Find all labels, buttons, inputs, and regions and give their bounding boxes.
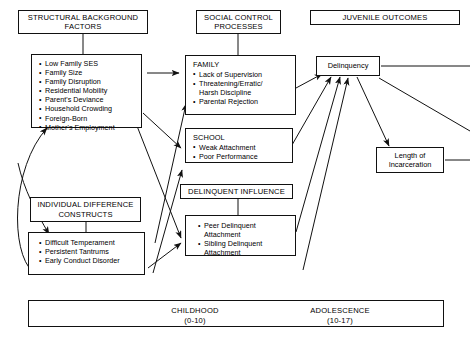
header-delinquent-influence-label: DELINQUENT INFLUENCE <box>181 187 292 197</box>
list-item: Household Crowding <box>39 104 138 113</box>
timeline-childhood: CHILDHOOD (0-10) <box>140 306 250 325</box>
list-item: Threatening/Erratic/ Harsh Discipline <box>193 79 292 97</box>
list-item: Low Family SES <box>39 59 138 68</box>
family-title: FAMILY <box>193 60 292 69</box>
arrow-individual-to-school <box>153 170 182 273</box>
arrow-structural-to-school <box>143 113 181 148</box>
list-item: Family Size <box>39 68 138 77</box>
header-social-control-processes: SOCIAL CONTROL PROCESSES <box>196 10 281 34</box>
list-item: Foreign-Born <box>39 114 138 123</box>
list-item: Difficult Temperament <box>39 238 141 247</box>
header-structural-label: STRUCTURAL BACKGROUND FACTORS <box>19 13 147 32</box>
box-school: SCHOOL Weak Attachment Poor Performance <box>185 128 293 163</box>
list-item: Mother's Employment <box>39 123 138 132</box>
arrow-structural-to-delinquent-influence <box>137 126 181 238</box>
box-delinquent-influence: Peer Delinquent Attachment Sibling Delin… <box>185 215 296 256</box>
arrow-individual-to-family <box>155 104 186 243</box>
arrow-family-to-delinquency <box>296 74 322 88</box>
list-item: Sibling Delinquent Attachment <box>198 239 292 257</box>
list-item: Parent's Deviance <box>39 95 138 104</box>
delinquent-influence-list: Peer Delinquent Attachment Sibling Delin… <box>198 221 292 257</box>
individual-constructs-list: Difficult Temperament Persistent Tantrum… <box>39 238 141 265</box>
arrow-individual-to-delinquency <box>303 78 348 270</box>
box-family: FAMILY Lack of Supervision Threatening/E… <box>185 55 296 115</box>
box-length-of-incarceration: Length of Incarceration <box>376 147 444 173</box>
list-item: Weak Attachment <box>193 143 289 152</box>
header-juvenile-outcomes: JUVENILE OUTCOMES <box>310 10 460 25</box>
list-item: Poor Performance <box>193 152 289 161</box>
family-list: Lack of Supervision Threatening/Erratic/… <box>193 70 292 106</box>
structural-factors-list: Low Family SES Family Size Family Disrup… <box>39 59 138 132</box>
timeline-childhood-range: (0-10) <box>140 316 250 326</box>
header-delinquent-influence: DELINQUENT INFLUENCE <box>180 184 293 199</box>
timeline-adolescence-label: ADOLESCENCE <box>285 306 395 316</box>
incarceration-label: Length of Incarceration <box>389 151 432 169</box>
box-individual-difference-constructs: Difficult Temperament Persistent Tantrum… <box>28 232 145 275</box>
rule-delinquency-diagonal <box>379 78 470 131</box>
school-title: SCHOOL <box>193 133 289 142</box>
header-juvenile-label: JUVENILE OUTCOMES <box>311 13 459 23</box>
list-item: Peer Delinquent Attachment <box>198 221 292 239</box>
list-item: Residential Mobility <box>39 86 138 95</box>
arrow-delinquent-influence-to-delinquency <box>296 77 340 232</box>
header-structural-background-factors: STRUCTURAL BACKGROUND FACTORS <box>18 10 148 34</box>
diagram-canvas: STRUCTURAL BACKGROUND FACTORS SOCIAL CON… <box>0 0 472 343</box>
arrow-individual-to-delinquent-influence <box>148 243 181 268</box>
list-item: Lack of Supervision <box>193 70 292 79</box>
header-individual-label: INDIVIDUAL DIFFERENCE CONSTRUCTS <box>31 200 140 219</box>
list-item: Parental Rejection <box>193 97 292 106</box>
timeline-childhood-label: CHILDHOOD <box>140 306 250 316</box>
arrow-delinquency-to-incarceration <box>357 77 389 146</box>
box-delinquency: Delinquency <box>316 56 380 76</box>
list-item: Family Disruption <box>39 77 138 86</box>
list-item: Early Conduct Disorder <box>39 256 141 265</box>
box-structural-background-factors: Low Family SES Family Size Family Disrup… <box>31 54 142 128</box>
header-individual-difference-constructs: INDIVIDUAL DIFFERENCE CONSTRUCTS <box>30 197 141 222</box>
header-social-label: SOCIAL CONTROL PROCESSES <box>197 13 280 32</box>
timeline-adolescence: ADOLESCENCE (10-17) <box>285 306 395 325</box>
timeline-adolescence-range: (10-17) <box>285 316 395 326</box>
arrow-school-to-delinquency <box>292 77 331 145</box>
list-item: Persistent Tantrums <box>39 247 141 256</box>
delinquency-label: Delinquency <box>328 61 369 70</box>
school-list: Weak Attachment Poor Performance <box>193 143 289 161</box>
